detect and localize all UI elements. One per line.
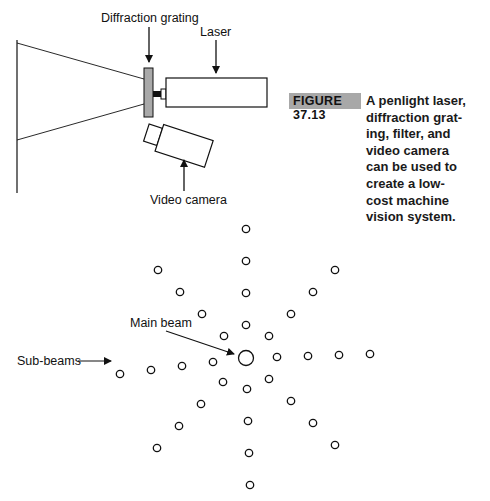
label-diffraction-grating: Diffraction grating [101,11,199,25]
caption-line: ing, filter, and [366,126,488,143]
sub-beam-dot [116,370,123,377]
sub-beam-dot [331,266,338,273]
caption-line: video camera [366,143,488,160]
sub-beam-dot [265,332,272,339]
sub-beam-dot [265,375,272,382]
sub-beam-dot [244,417,251,424]
label-main-beam: Main beam [130,316,192,330]
sub-beam-dot [309,419,316,426]
sub-beam-dot [153,444,160,451]
figure-number: FIGURE 37.13 [293,94,361,122]
main-beam-dot [239,351,254,366]
sub-beam-dot [304,352,311,359]
caption-line: vision system. [366,209,488,226]
sub-beam-dot [242,321,249,328]
sub-beam-dot [243,385,250,392]
sub-beam-dot [309,288,316,295]
laser-tip [161,89,166,99]
caption-line: cost machine [366,193,488,210]
sub-beam-dot [220,332,227,339]
sub-beam-dot [242,225,249,232]
figure-number-badge: FIGURE 37.13 [289,93,361,109]
figure-caption: A penlight laser, diffraction grat- ing,… [366,93,488,226]
beam-upper-line [17,43,144,79]
caption-line: A penlight laser, [366,93,488,110]
caption-line: diffraction grat- [366,110,488,127]
laser-body [166,78,267,107]
sub-beam-dot [287,310,294,317]
sub-beam-dot [366,350,373,357]
sub-beam-dot [273,353,280,360]
diffraction-grating [144,68,153,117]
sub-beam-dot [209,358,216,365]
sub-beam-dot [198,310,205,317]
sub-beam-dot [246,481,253,488]
sub-beam-dot [287,397,294,404]
beam-lower-line [17,104,144,140]
label-sub-beams: Sub-beams [17,354,81,368]
sub-beam-dot [175,422,182,429]
sub-beam-dot [242,257,249,264]
caption-line: create a low- [366,176,488,193]
label-video-camera: Video camera [150,193,227,207]
sub-beam-dot [242,289,249,296]
sub-beam-dot [335,351,342,358]
sub-beam-dot [154,266,161,273]
beam-pattern [116,225,373,488]
laser-connector [153,91,161,97]
sub-beam-dot [176,288,183,295]
sub-beam-dot [219,378,226,385]
sub-beam-dot [331,441,338,448]
video-camera [142,120,213,167]
machine-vision-diagram: Diffraction grating Laser Video camera M… [0,0,490,501]
sub-beam-dot [178,362,185,369]
label-laser: Laser [200,25,231,39]
sub-beam-dot [197,400,204,407]
sub-beam-dot [147,366,154,373]
caption-line: can be used to [366,159,488,176]
sub-beam-dot [245,449,252,456]
